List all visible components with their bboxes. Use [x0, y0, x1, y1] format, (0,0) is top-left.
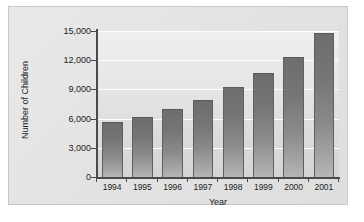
plot-area [97, 31, 339, 177]
y-tick-label: 12,000 [39, 56, 91, 65]
x-tick-label: 1999 [248, 181, 278, 195]
x-tick-label: 1996 [158, 181, 188, 195]
y-tick-mark [91, 148, 97, 149]
bar-slot [188, 31, 218, 177]
y-tick-label: 9,000 [39, 85, 91, 94]
x-tick-label: 1994 [97, 181, 127, 195]
y-tick-mark [91, 60, 97, 61]
y-tick-mark [91, 31, 97, 32]
bar-slot [248, 31, 278, 177]
bar-2000[interactable] [283, 57, 304, 177]
x-axis-tick-labels: 19941995199619971998199920002001 [97, 181, 339, 195]
x-axis-title: Year [97, 197, 339, 207]
bar-slot [309, 31, 339, 177]
chart-panel: 03,0006,0009,00012,00015,000 19941995199… [8, 6, 348, 205]
x-axis-line [96, 177, 340, 179]
y-tick-label: 15,000 [39, 27, 91, 36]
x-tick-label: 1998 [218, 181, 248, 195]
bar-slot [279, 31, 309, 177]
x-tick-label: 1995 [127, 181, 157, 195]
bar-2001[interactable] [314, 33, 335, 177]
y-tick-mark [91, 89, 97, 90]
y-axis-line [96, 29, 98, 179]
bar-1995[interactable] [132, 117, 153, 177]
bar-slot [218, 31, 248, 177]
y-tick-mark [91, 119, 97, 120]
bar-1994[interactable] [102, 122, 123, 177]
y-tick-label: 6,000 [39, 115, 91, 124]
y-tick-label: 0 [39, 173, 91, 182]
chart-figure: 03,0006,0009,00012,00015,000 19941995199… [0, 0, 364, 222]
bar-1998[interactable] [223, 87, 244, 177]
bar-series [97, 31, 339, 177]
bar-slot [158, 31, 188, 177]
y-axis-tick-labels: 03,0006,0009,00012,00015,000 [33, 7, 91, 206]
x-tick-label: 2000 [279, 181, 309, 195]
y-axis-title: Number of Children [20, 40, 30, 160]
y-tick-label: 3,000 [39, 144, 91, 153]
x-tick-label: 1997 [188, 181, 218, 195]
bar-1996[interactable] [162, 109, 183, 177]
bar-1999[interactable] [253, 73, 274, 177]
bar-slot [127, 31, 157, 177]
bar-slot [97, 31, 127, 177]
bar-1997[interactable] [193, 100, 214, 177]
x-tick-label: 2001 [309, 181, 339, 195]
